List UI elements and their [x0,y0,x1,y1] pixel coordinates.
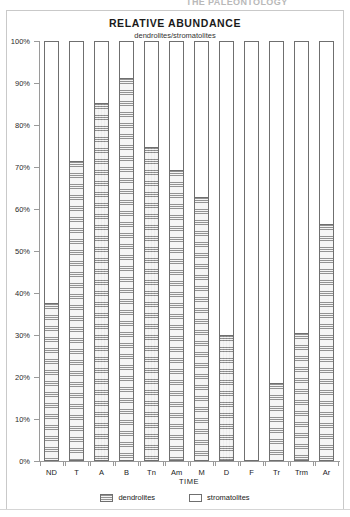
legend-item-stromatolites: stromatolites [189,493,250,502]
bar-a [94,41,109,461]
x-axis-tick [115,461,116,466]
x-axis-tick [65,461,66,466]
x-axis-tick [88,461,89,466]
y-axis-tick-label: 100% [7,37,30,46]
chart-title: RELATIVE ABUNDANCE [7,17,343,29]
y-axis-tick-label: 70% [7,163,30,172]
x-axis-tick [338,461,339,466]
y-axis-tick-label: 0% [7,457,30,466]
y-axis-tick [34,419,40,420]
x-axis-tick [240,461,241,466]
y-axis-tick [34,83,40,84]
bar-t [69,41,84,461]
x-axis-label-m: M [198,468,204,477]
x-axis-label-b: B [124,468,129,477]
x-axis-tick [290,461,291,466]
legend-swatch-stromatolites-icon [189,494,202,502]
y-axis-tick [34,167,40,168]
x-axis-tick [138,461,139,466]
x-axis-tick [165,461,166,466]
y-axis-tick [34,377,40,378]
cutoff-header-text: THE PALEONTOLOGY [186,0,288,5]
bar-segment-dendrolites [320,224,333,460]
bar-b [119,41,134,461]
chart-figure: RELATIVE ABUNDANCE dendrolites/stromatol… [6,10,344,510]
bar-segment-dendrolites [95,103,108,460]
y-axis-tick-label: 50% [7,247,30,256]
bar-ar [319,41,334,461]
bar-d [219,41,234,461]
x-axis-label-f: F [249,468,254,477]
x-axis-label-d: D [224,468,229,477]
bar-tr [269,41,284,461]
x-axis-label-a: A [99,468,104,477]
bar-segment-dendrolites [70,161,83,460]
x-axis-tick [40,461,41,466]
y-axis-tick-label: 80% [7,121,30,130]
page-bottom-rule [0,509,350,510]
legend-label-stromatolites: stromatolites [207,493,250,502]
bar-segment-dendrolites [120,78,133,460]
bar-segment-dendrolites [195,197,208,460]
bar-nd [44,41,59,461]
bar-segment-dendrolites [295,333,308,460]
y-axis-tick [34,251,40,252]
x-axis-tick [140,461,141,466]
x-axis-tick [190,461,191,466]
chart-subtitle: dendrolites/stromatolites [7,31,343,40]
x-axis-tick [163,461,164,466]
x-axis-tick [63,461,64,466]
x-axis-tick [238,461,239,466]
x-axis-label-nd: ND [46,468,57,477]
y-axis-tick-label: 60% [7,205,30,214]
x-axis-tick [188,461,189,466]
x-axis-label-am: Am [171,468,182,477]
x-axis-tick [90,461,91,466]
bar-segment-dendrolites [220,335,233,460]
y-axis-tick [34,41,40,42]
y-axis-tick-label: 10% [7,415,30,424]
x-axis-tick [288,461,289,466]
bar-segment-dendrolites [45,303,58,460]
y-axis-tick-label: 20% [7,373,30,382]
y-axis-tick [34,293,40,294]
y-axis-tick [34,209,40,210]
x-axis-label-t: T [74,468,79,477]
x-axis-tick [215,461,216,466]
y-axis-tick-label: 40% [7,289,30,298]
bar-segment-dendrolites [145,147,158,461]
x-axis-label-trm: Trm [295,468,308,477]
x-axis-label-ar: Ar [323,468,331,477]
x-axis-label-tn: Tn [147,468,156,477]
x-axis-title: TIME [39,477,339,486]
chart-legend: dendrolites stromatolites [7,493,343,502]
bar-tn [144,41,159,461]
bar-f [244,41,259,461]
y-axis-tick [34,125,40,126]
y-axis-tick-label: 90% [7,79,30,88]
x-axis-tick [213,461,214,466]
legend-swatch-dendrolites-icon [100,494,113,502]
x-axis-tick [263,461,264,466]
x-axis-label-tr: Tr [273,468,280,477]
bar-am [169,41,184,461]
y-axis-tick [34,335,40,336]
plot-area [39,41,339,461]
x-axis-tick [113,461,114,466]
x-axis-tick [313,461,314,466]
legend-label-dendrolites: dendrolites [118,493,155,502]
x-axis-tick [265,461,266,466]
bar-m [194,41,209,461]
legend-item-dendrolites: dendrolites [100,493,155,502]
x-axis-tick [315,461,316,466]
bar-segment-dendrolites [270,383,283,460]
bar-segment-dendrolites [170,170,183,461]
bar-trm [294,41,309,461]
y-axis-tick-label: 30% [7,331,30,340]
